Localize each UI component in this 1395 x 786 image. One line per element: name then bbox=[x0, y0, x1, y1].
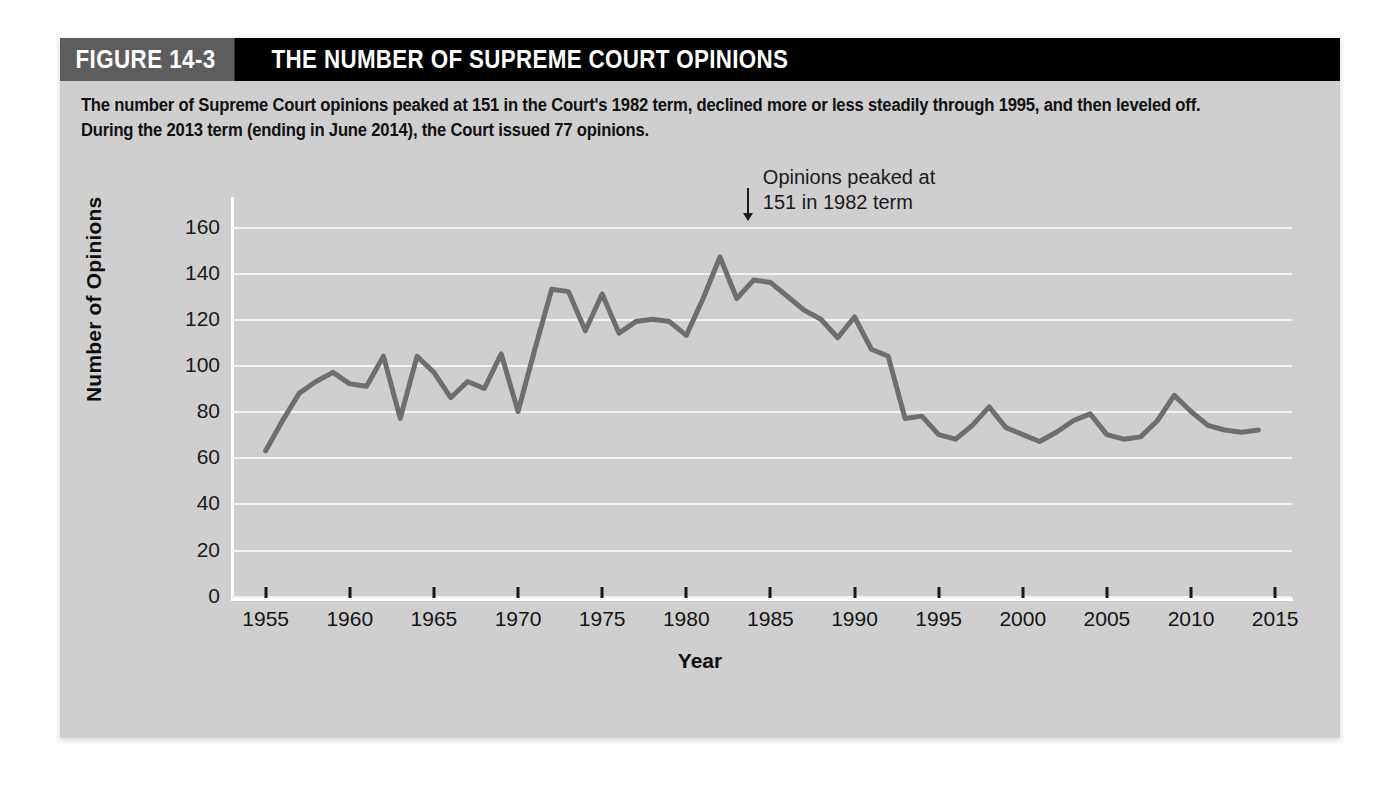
x-tick-mark bbox=[1021, 587, 1024, 598]
y-tick-label: 80 bbox=[197, 399, 220, 423]
y-tick-label: 100 bbox=[185, 353, 220, 377]
opinions-line-series bbox=[232, 204, 1292, 596]
x-tick-label: 2015 bbox=[1252, 607, 1299, 631]
gridline bbox=[232, 596, 1292, 598]
opinions-line bbox=[266, 257, 1259, 451]
x-tick-label: 2005 bbox=[1084, 607, 1131, 631]
x-tick-mark bbox=[264, 587, 267, 598]
x-tick-label: 1955 bbox=[242, 607, 289, 631]
figure-title: THE NUMBER OF SUPREME COURT OPINIONS bbox=[263, 38, 788, 81]
x-axis-line bbox=[231, 598, 1293, 601]
x-tick-label: 1975 bbox=[579, 607, 626, 631]
figure-number-label: FIGURE 14-3 bbox=[60, 38, 235, 81]
y-tick-label: 40 bbox=[197, 491, 220, 515]
x-tick-mark bbox=[1274, 587, 1277, 598]
x-tick-mark bbox=[348, 587, 351, 598]
chart-area: 020406080100120140160 195519601965197019… bbox=[60, 157, 1340, 757]
x-tick-label: 2010 bbox=[1168, 607, 1215, 631]
annotation-line-2: 151 in 1982 term bbox=[763, 190, 913, 214]
x-tick-label: 1990 bbox=[831, 607, 878, 631]
figure-panel: FIGURE 14-3 THE NUMBER OF SUPREME COURT … bbox=[60, 38, 1340, 738]
plot-frame bbox=[232, 204, 1292, 596]
x-axis-title: Year bbox=[60, 649, 1340, 673]
x-tick-mark bbox=[517, 587, 520, 598]
x-tick-label: 1965 bbox=[411, 607, 458, 631]
y-tick-label: 120 bbox=[185, 307, 220, 331]
x-tick-mark bbox=[432, 587, 435, 598]
x-tick-label: 1960 bbox=[326, 607, 373, 631]
down-arrow-icon bbox=[747, 188, 750, 214]
y-tick-label: 160 bbox=[185, 215, 220, 239]
x-tick-mark bbox=[1190, 587, 1193, 598]
x-tick-mark bbox=[937, 587, 940, 598]
y-tick-label: 0 bbox=[208, 584, 220, 608]
x-tick-label: 1970 bbox=[495, 607, 542, 631]
annotation-line-1: Opinions peaked at bbox=[763, 165, 935, 189]
x-tick-mark bbox=[853, 587, 856, 598]
x-tick-mark bbox=[1105, 587, 1108, 598]
x-tick-mark bbox=[769, 587, 772, 598]
y-axis-title: Number of Opinions bbox=[82, 196, 106, 401]
figure-caption: The number of Supreme Court opinions pea… bbox=[60, 81, 1276, 151]
x-tick-mark bbox=[685, 587, 688, 598]
y-tick-label: 60 bbox=[197, 445, 220, 469]
x-tick-label: 1980 bbox=[663, 607, 710, 631]
y-tick-label: 20 bbox=[197, 538, 220, 562]
x-tick-label: 2000 bbox=[999, 607, 1046, 631]
x-tick-label: 1985 bbox=[747, 607, 794, 631]
figure-header: FIGURE 14-3 THE NUMBER OF SUPREME COURT … bbox=[60, 38, 1340, 81]
x-tick-mark bbox=[601, 587, 604, 598]
x-tick-label: 1995 bbox=[915, 607, 962, 631]
y-tick-label: 140 bbox=[185, 261, 220, 285]
